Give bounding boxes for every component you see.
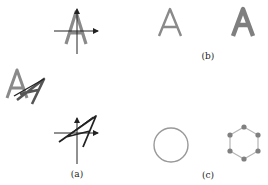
panel-a: (a) [0, 0, 134, 185]
panel-c: (c) [134, 92, 268, 185]
caption-a: (a) [71, 169, 83, 179]
hexagon-graph-icon [227, 124, 260, 161]
upright-a-icon [66, 12, 86, 44]
panel-b: (b) [134, 0, 268, 70]
bold-a-icon [233, 9, 253, 36]
caption-c: (c) [202, 170, 214, 180]
circle-icon [154, 128, 188, 162]
caption-b: (b) [202, 51, 215, 61]
thin-a-icon [159, 9, 181, 36]
panel-a-graphics [0, 0, 134, 185]
sheared-a-icon [7, 70, 44, 104]
